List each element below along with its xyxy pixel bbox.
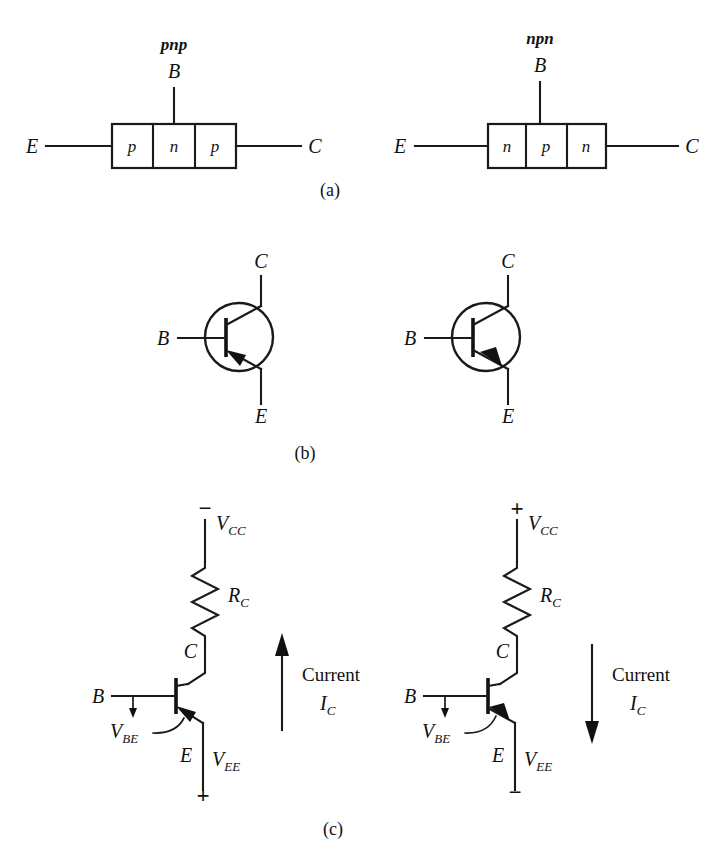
- part-a-right-region-2: p: [541, 137, 551, 156]
- part-b-left-base-label: B: [157, 327, 169, 349]
- part-c-left-collector-label: C: [184, 640, 198, 662]
- part-c-left-group: − VCC RC C B E VBE: [92, 496, 361, 808]
- part-a-right-type-label: npn: [526, 29, 553, 48]
- part-c-left-resistor-label: RC: [227, 584, 249, 610]
- part-a-right-emitter-label: E: [393, 135, 406, 157]
- part-c-left-current-label: Current: [302, 664, 361, 685]
- part-c-right-vee-sign: −: [508, 780, 521, 805]
- part-c-left-vbe-tick-arrow: [129, 708, 137, 718]
- part-b-right-collector-slant: [473, 306, 508, 325]
- part-c-right-current-sub: C: [637, 703, 646, 718]
- part-a-left-region-3: p: [210, 137, 220, 156]
- part-c-left-vbe-label: VBE: [110, 720, 138, 746]
- part-c-left-resistor: [192, 562, 218, 643]
- part-a-right-region-1: n: [503, 137, 512, 156]
- part-c-right-emitter-label: E: [491, 744, 504, 766]
- part-c-right-base-label: B: [404, 685, 416, 707]
- part-b-left-group: C B E: [157, 250, 273, 427]
- part-c-right-resistor-label: RC: [539, 584, 561, 610]
- part-c-left-base-label: B: [92, 685, 104, 707]
- part-c-left-current-arrowhead: [275, 633, 289, 656]
- part-c-right-vbe-label: VBE: [422, 720, 450, 746]
- part-a-right-collector-label: C: [685, 135, 699, 157]
- part-b-right-base-label: B: [404, 327, 416, 349]
- part-c-right-current-symbol: IC: [629, 692, 646, 718]
- part-c-right-current-label: Current: [612, 664, 671, 685]
- part-c-right-supply-sign: +: [510, 496, 523, 521]
- part-c-left-vee-sign: +: [196, 783, 209, 808]
- part-c-left-resistor-sub: C: [240, 595, 249, 610]
- part-a-left-type-label: pnp: [159, 35, 187, 54]
- part-c-left-vbe-sub: BE: [122, 731, 138, 746]
- part-c-right-vee-label: VEE: [524, 748, 552, 774]
- part-c-caption: (c): [323, 819, 343, 840]
- part-c-left-vee-label: VEE: [212, 748, 240, 774]
- part-a-right-group: npn B n p n E C: [393, 29, 699, 168]
- part-c-right-resistor: [504, 562, 530, 643]
- part-c-left-current-sub: C: [327, 703, 336, 718]
- part-b-caption: (b): [295, 443, 316, 464]
- part-b-right-collector-label: C: [501, 250, 515, 272]
- part-c-right-vee-sub: EE: [535, 759, 552, 774]
- part-c-right-supply-label: VCC: [528, 512, 558, 538]
- part-a-left-region-1: p: [127, 137, 137, 156]
- part-c-left-supply-label: VCC: [216, 512, 246, 538]
- part-c-right-collector-label: C: [496, 640, 510, 662]
- part-c-right-current-arrowhead: [585, 721, 599, 744]
- transistor-figure-svg: pnp B p n p E C npn B n p n E C (a): [0, 0, 727, 852]
- part-c-right-resistor-sub: C: [552, 595, 561, 610]
- part-a-caption: (a): [320, 180, 340, 201]
- part-a-left-group: pnp B p n p E C: [25, 35, 322, 168]
- figure-root: pnp B p n p E C npn B n p n E C (a): [0, 0, 727, 852]
- part-c-left-emitter-label: E: [179, 744, 192, 766]
- part-c-right-vbe-sub: BE: [434, 731, 450, 746]
- part-a-left-region-2: n: [170, 137, 179, 156]
- part-a-left-collector-label: C: [308, 135, 322, 157]
- part-a-left-base-label: B: [168, 60, 180, 82]
- part-c-left-vee-sub: EE: [223, 759, 240, 774]
- part-c-right-vbe-pointer: [465, 716, 496, 733]
- part-c-right-emitter-arrowhead: [489, 703, 510, 721]
- part-b-right-group: C B E: [404, 250, 520, 427]
- part-b-right-emitter-label: E: [501, 405, 514, 427]
- part-a-right-region-3: n: [582, 137, 591, 156]
- part-c-left-emitter-arrowhead: [176, 706, 196, 722]
- part-c-right-group: + VCC RC C B E VBE VEE − Current: [404, 496, 671, 805]
- part-c-left-supply-sign: −: [198, 496, 211, 521]
- part-c-left-current-symbol: IC: [319, 692, 336, 718]
- part-c-left-supply-sub: CC: [228, 523, 246, 538]
- part-b-left-collector-label: C: [254, 250, 268, 272]
- part-a-left-emitter-label: E: [25, 135, 38, 157]
- part-b-left-collector-slant: [226, 306, 261, 325]
- part-c-left-vbe-pointer: [153, 718, 184, 733]
- part-a-right-base-label: B: [534, 54, 546, 76]
- part-b-left-emitter-arrowhead: [226, 350, 246, 366]
- part-c-right-supply-sub: CC: [540, 523, 558, 538]
- part-b-left-emitter-label: E: [254, 405, 267, 427]
- part-c-right-vbe-tick-arrow: [441, 708, 449, 718]
